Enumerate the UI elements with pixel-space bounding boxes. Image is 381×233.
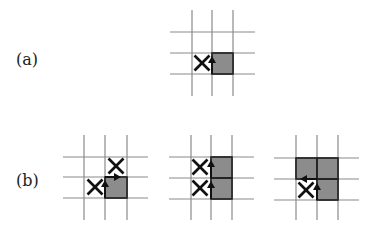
- grid-panel-b3: [274, 135, 359, 220]
- grid-panel-a: [170, 10, 255, 96]
- x-mark-icon: [88, 180, 103, 195]
- grid-panel-b1: [63, 135, 148, 220]
- x-mark-icon: [109, 159, 124, 174]
- x-mark-icon: [193, 181, 208, 196]
- x-mark-icon: [195, 56, 210, 71]
- shaded-cell: [105, 177, 127, 198]
- grid-diagram: [0, 0, 381, 233]
- x-mark-icon: [193, 160, 208, 175]
- shaded-cell: [212, 53, 233, 74]
- shaded-cell: [211, 157, 232, 178]
- grid-panel-b2: [169, 135, 254, 220]
- shaded-cell: [211, 178, 232, 199]
- x-mark-icon: [299, 183, 314, 198]
- shaded-cell: [317, 158, 338, 179]
